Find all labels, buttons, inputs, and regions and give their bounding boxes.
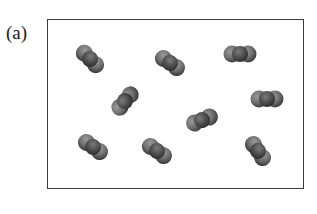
molecule — [251, 91, 284, 108]
molecule — [72, 41, 107, 76]
molecule — [139, 135, 176, 168]
molecules-layer — [0, 0, 317, 214]
center-atom — [259, 91, 275, 107]
molecule — [224, 46, 257, 63]
center-atom — [232, 46, 248, 62]
molecule — [108, 83, 142, 119]
molecule — [75, 131, 112, 164]
molecule — [152, 47, 189, 80]
molecule — [242, 133, 275, 170]
molecule — [184, 106, 221, 134]
